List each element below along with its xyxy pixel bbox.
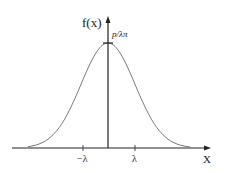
tick-label-pos-lambda: λ — [132, 153, 137, 164]
distribution-curve — [28, 43, 190, 147]
x-axis-arrow-icon — [204, 146, 211, 151]
y-axis-label: f(x) — [82, 15, 102, 30]
chart: f(x) p/λπ −λ λ X — [0, 0, 229, 173]
peak-label: p/λπ — [111, 29, 128, 39]
y-axis-arrow-icon — [106, 16, 111, 23]
tick-label-neg-lambda: −λ — [77, 153, 88, 164]
x-axis-label: X — [203, 153, 211, 165]
